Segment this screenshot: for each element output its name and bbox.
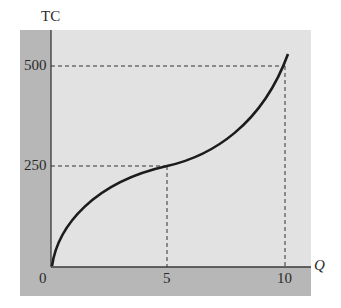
x-tick-0: 0	[39, 270, 47, 287]
x-axis-label: Q	[314, 257, 325, 274]
y-tick-250: 250	[24, 157, 47, 174]
y-tick-500: 500	[24, 57, 47, 74]
tc-curve	[52, 54, 288, 266]
tc-chart	[0, 0, 341, 308]
x-tick-5: 5	[163, 270, 171, 287]
y-axis-label: TC	[41, 8, 60, 25]
x-tick-10: 10	[277, 270, 292, 287]
